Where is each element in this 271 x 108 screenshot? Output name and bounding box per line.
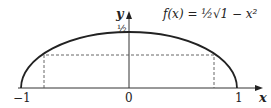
x-axis-label: x xyxy=(259,90,267,105)
function-label: f(x) = ½√1 − x² xyxy=(163,7,257,21)
x-tick-1: 1 xyxy=(235,91,243,105)
y-tick-half: ½ xyxy=(117,23,127,34)
y-axis-label: y xyxy=(116,6,124,21)
x-tick-neg1: −1 xyxy=(13,91,31,105)
y-axis-arrow-icon xyxy=(126,11,132,19)
ellipse-diagram: y x ½ −1 0 1 f(x) = ½√1 − x² xyxy=(0,0,271,108)
x-tick-0: 0 xyxy=(125,91,133,105)
